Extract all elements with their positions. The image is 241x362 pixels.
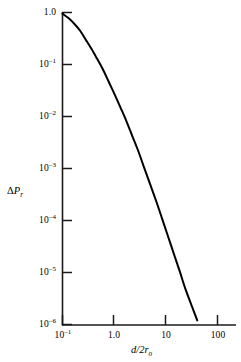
- y-tick-label-1e0: 1.0: [8, 8, 56, 18]
- y-tick-label-1e-6: 10–6: [8, 320, 56, 330]
- y-tick-label-1e-3-exp: –3: [49, 161, 56, 169]
- y-axis-title-delta: Δ: [7, 185, 14, 196]
- log-log-plot: [0, 0, 241, 362]
- y-axis-title: ΔPr: [7, 186, 23, 197]
- x-tick-label-1e-1-base: 10: [55, 330, 65, 340]
- y-tick-label-1e-4-base: 10: [39, 215, 49, 225]
- x-axis-title-sub: o: [149, 350, 153, 358]
- y-tick-label-1e-2: 10–2: [8, 112, 56, 122]
- y-tick-label-1e-6-exp: –6: [49, 317, 56, 325]
- data-curve-delta-pr: [63, 14, 198, 321]
- y-tick-label-1e-1-base: 10: [39, 59, 49, 69]
- x-tick-label-10: 10: [146, 331, 186, 341]
- y-axis-title-sub: r: [20, 191, 23, 199]
- figure-container: 1.0 10–1 10–2 10–3 10–4 10–5 10–6 10–1 1…: [0, 0, 241, 362]
- y-tick-label-1e-3-base: 10: [39, 163, 49, 173]
- x-tick-label-100: 100: [198, 331, 238, 341]
- y-tick-label-1e-5: 10–5: [8, 268, 56, 278]
- y-tick-label-1e-1: 10–1: [8, 60, 56, 70]
- x-tick-label-1e-1-exp: –1: [64, 328, 71, 336]
- y-axis-ticks: [62, 13, 72, 325]
- y-tick-label-1e-5-base: 10: [39, 267, 49, 277]
- y-tick-label-1e-4-exp: –4: [49, 213, 56, 221]
- x-axis-title-denominator: /2r: [136, 344, 148, 355]
- y-tick-label-1e-4: 10–4: [8, 216, 56, 226]
- y-tick-label-1e-3: 10–3: [8, 164, 56, 174]
- x-tick-label-1e-1: 10–1: [43, 331, 83, 341]
- x-axis-ticks: [63, 315, 218, 325]
- x-axis-title: d/2ro: [131, 345, 152, 356]
- y-tick-label-1e-6-base: 10: [39, 319, 49, 329]
- x-tick-label-1: 1.0: [94, 331, 134, 341]
- y-tick-label-1e-1-exp: –1: [49, 57, 56, 65]
- y-tick-label-1e-2-base: 10: [39, 111, 49, 121]
- y-tick-label-1e-2-exp: –2: [49, 109, 56, 117]
- y-tick-label-1e-5-exp: –5: [49, 265, 56, 273]
